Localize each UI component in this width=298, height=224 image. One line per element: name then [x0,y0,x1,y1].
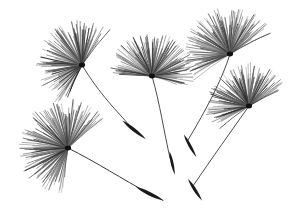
pappus-core [246,104,252,109]
pappus-core [79,63,85,68]
dandelion-seeds-artwork [0,0,298,224]
pappus-core [149,74,155,79]
pappus-core [227,52,233,57]
dandelion-illustration-canvas: Dandelion Seeds Five black-and-white dan… [0,0,298,224]
pappus-core [65,146,71,151]
